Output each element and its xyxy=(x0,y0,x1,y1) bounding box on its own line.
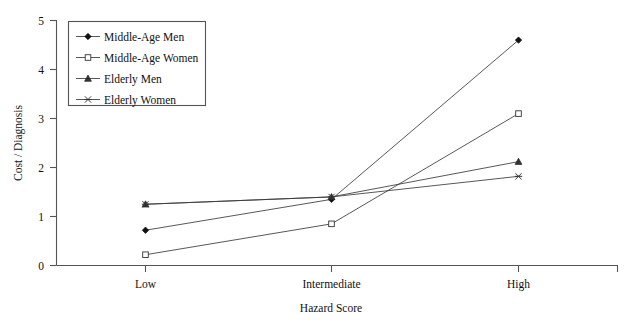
legend-label-elderly-women: Elderly Women xyxy=(104,94,176,107)
x-category-label-low: Low xyxy=(135,278,157,290)
x-category-label-intermediate: Intermediate xyxy=(302,278,360,290)
x-axis: Low Intermediate High Hazard Score xyxy=(57,266,619,315)
legend-marker-open-square-icon xyxy=(85,55,91,61)
y-tick-label-4: 4 xyxy=(38,64,44,76)
x-axis-title: Hazard Score xyxy=(300,302,362,314)
y-tick-label-0: 0 xyxy=(38,260,44,272)
legend-label-middle-age-women: Middle-Age Women xyxy=(104,52,199,65)
data-point-marker xyxy=(515,158,522,164)
y-tick-label-1: 1 xyxy=(38,211,44,223)
data-point-marker xyxy=(143,252,149,258)
chart-container: 0 1 2 3 4 5 Cost / Diagnosis Low Interme… xyxy=(0,0,630,322)
y-tick-label-2: 2 xyxy=(38,162,44,174)
y-tick-label-5: 5 xyxy=(38,15,44,27)
data-point-marker xyxy=(142,227,148,233)
y-tick-label-3: 3 xyxy=(38,113,44,125)
series-middle-age-women xyxy=(143,111,522,258)
y-axis: 0 1 2 3 4 5 Cost / Diagnosis xyxy=(12,15,57,272)
x-category-label-high: High xyxy=(507,278,530,291)
line-chart: 0 1 2 3 4 5 Cost / Diagnosis Low Interme… xyxy=(0,0,630,322)
legend-label-middle-age-men: Middle-Age Men xyxy=(104,31,184,44)
legend-label-elderly-men: Elderly Men xyxy=(104,73,162,86)
y-axis-title: Cost / Diagnosis xyxy=(12,104,25,181)
data-point-marker xyxy=(516,111,522,117)
data-point-marker xyxy=(329,221,335,227)
legend: Middle-Age Men Middle-Age Women Elderly … xyxy=(69,22,206,107)
data-point-marker xyxy=(515,173,522,179)
series-line-path xyxy=(146,114,519,255)
